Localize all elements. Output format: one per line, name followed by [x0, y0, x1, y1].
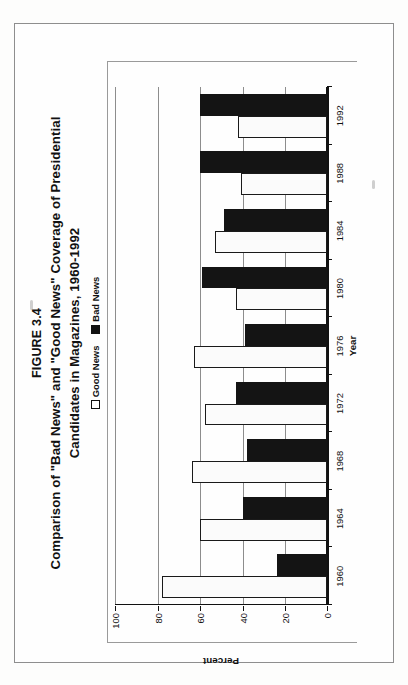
value-tick-label-100: 100: [110, 613, 121, 643]
value-tick-60: [200, 606, 201, 611]
chart-legend: Good News Bad News: [90, 27, 101, 659]
category-tick-1960: [327, 604, 332, 605]
value-tick-label-20: 20: [280, 613, 291, 643]
bar-bad-news-1976: [245, 324, 328, 346]
figure-title: Comparison of "Bad News" and "Good News"…: [47, 27, 84, 659]
category-tick-1968: [327, 488, 332, 489]
gridline-100: [115, 87, 116, 605]
category-tick-1964: [327, 546, 332, 547]
bar-good-news-1984: [215, 230, 327, 252]
bar-good-news-1964: [200, 518, 327, 540]
value-tick-80: [158, 606, 159, 611]
category-label-1980: 1980: [334, 278, 345, 299]
category-label-1960: 1960: [334, 565, 345, 586]
bar-bad-news-1992: [200, 93, 327, 115]
bar-good-news-1988: [241, 173, 328, 195]
scanned-page: FIGURE 3.4 Comparison of "Bad News" and …: [0, 0, 408, 685]
plot-wrapper: 020406080100Percent196019641968197219761…: [107, 53, 357, 651]
legend-item-good-news: Good News: [90, 345, 101, 409]
gridline-80: [158, 87, 159, 605]
bar-good-news-1980: [236, 288, 327, 310]
category-tick-1992: [327, 143, 332, 144]
category-label-1984: 1984: [334, 220, 345, 241]
category-tick-1988: [327, 201, 332, 202]
value-tick-20: [285, 606, 286, 611]
bar-good-news-1968: [192, 461, 328, 483]
bar-bad-news-1972: [236, 381, 327, 403]
plot-area: 020406080100Percent196019641968197219761…: [115, 87, 327, 605]
category-label-1964: 1964: [334, 508, 345, 529]
category-tick-1972: [327, 431, 332, 432]
figure-number: FIGURE 3.4: [30, 27, 44, 659]
value-tick-label-0: 0: [322, 613, 333, 643]
value-tick-40: [243, 606, 244, 611]
category-tick-1984: [327, 258, 332, 259]
value-tick-label-80: 80: [152, 613, 163, 643]
bar-bad-news-1988: [200, 151, 327, 173]
gridline-0: [327, 87, 328, 605]
value-axis-label: Percent: [203, 655, 239, 666]
figure-title-line-2: Candidates in Magazines, 1960-1992: [66, 27, 85, 659]
bar-bad-news-1980: [202, 266, 327, 288]
open-square-icon: [91, 400, 100, 409]
category-tick-end: [327, 86, 332, 87]
category-axis-label: Year: [347, 335, 358, 356]
value-tick-label-60: 60: [195, 613, 206, 643]
bar-bad-news-1968: [247, 439, 328, 461]
category-label-1992: 1992: [334, 105, 345, 126]
bar-bad-news-1984: [224, 209, 328, 231]
category-label-1988: 1988: [334, 162, 345, 183]
value-tick-100: [115, 606, 116, 611]
bar-bad-news-1964: [243, 496, 328, 518]
category-label-1968: 1968: [334, 450, 345, 471]
category-label-1976: 1976: [334, 335, 345, 356]
bar-good-news-1960: [162, 576, 327, 598]
bar-good-news-1992: [238, 115, 327, 137]
category-tick-1976: [327, 373, 332, 374]
bar-bad-news-1960: [277, 554, 328, 576]
value-tick-0: [327, 606, 328, 611]
legend-label-bad-news: Bad News: [90, 276, 101, 321]
figure-title-line-1: Comparison of "Bad News" and "Good News"…: [47, 27, 66, 659]
category-label-1972: 1972: [334, 393, 345, 414]
category-tick-1980: [327, 316, 332, 317]
filled-square-icon: [91, 324, 100, 333]
bar-good-news-1972: [205, 403, 328, 425]
legend-label-good-news: Good News: [90, 345, 101, 397]
legend-item-bad-news: Bad News: [90, 276, 101, 333]
rotated-figure-stage: FIGURE 3.4 Comparison of "Bad News" and …: [26, 27, 382, 659]
value-tick-label-40: 40: [237, 613, 248, 643]
value-axis-spine: [115, 603, 327, 604]
bar-good-news-1976: [194, 346, 328, 368]
